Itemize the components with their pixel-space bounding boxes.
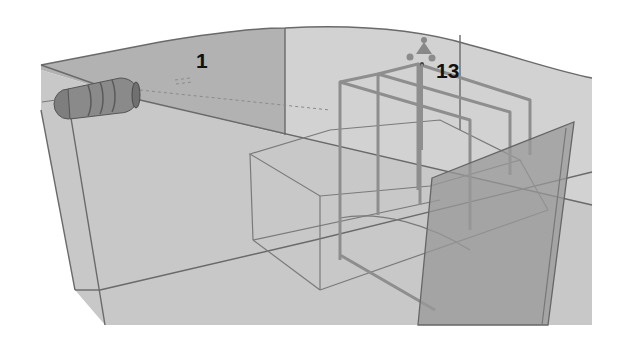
- camera-label: 1: [196, 50, 208, 71]
- scene-canvas: [0, 0, 623, 348]
- light-label: 13: [436, 60, 459, 81]
- scene-viewport: 1 13: [0, 0, 623, 348]
